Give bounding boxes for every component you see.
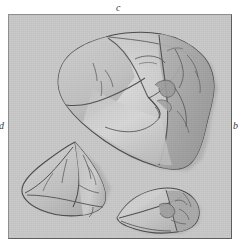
specimen-small-molar-lateral	[117, 188, 201, 234]
figure-label-b: b	[233, 120, 238, 131]
specimen-illustrations	[9, 15, 231, 238]
figure-root: c d b	[0, 0, 242, 239]
figure-label-c: c	[116, 2, 120, 13]
figure-label-d: d	[0, 120, 4, 131]
specimen-small-molar-lingual	[22, 142, 111, 217]
illustration-plate-panel	[8, 14, 232, 239]
